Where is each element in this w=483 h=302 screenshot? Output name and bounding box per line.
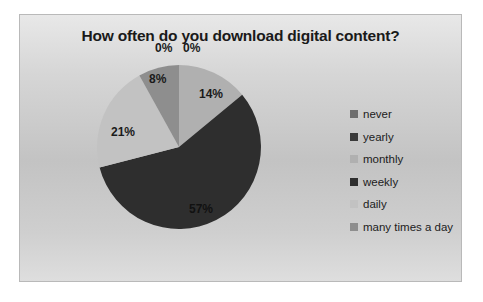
legend-swatch-icon xyxy=(350,110,358,118)
legend-item-yearly[interactable]: yearly xyxy=(350,126,480,149)
legend-label: yearly xyxy=(363,131,394,143)
legend-label: never xyxy=(363,108,392,120)
pie-label-daily: 21% xyxy=(111,125,135,139)
legend-item-weekly[interactable]: weekly xyxy=(350,171,480,194)
legend-item-daily[interactable]: daily xyxy=(350,193,480,216)
legend-label: daily xyxy=(363,198,387,210)
legend-label: weekly xyxy=(363,176,398,188)
legend-item-never[interactable]: never xyxy=(350,103,480,126)
pie-svg xyxy=(79,47,279,247)
legend-swatch-icon xyxy=(350,133,358,141)
pie-label-weekly: 57% xyxy=(189,202,213,216)
chart-panel: How often do you download digital conten… xyxy=(19,14,462,282)
pie-label-yearly: 0% xyxy=(183,41,200,55)
legend-item-monthly[interactable]: monthly xyxy=(350,148,480,171)
legend-swatch-icon xyxy=(350,178,358,186)
legend-item-many-times-a-day[interactable]: many times a day xyxy=(350,216,480,239)
pie-label-monthly: 14% xyxy=(199,87,223,101)
legend-swatch-icon xyxy=(350,200,358,208)
pie-label-many-times-a-day: 8% xyxy=(149,72,166,86)
legend-label: many times a day xyxy=(363,221,453,233)
chart-legend: never yearly monthly weekly daily many t xyxy=(350,103,480,238)
legend-swatch-icon xyxy=(350,155,358,163)
pie-chart: 0% 0% 14% 57% 21% 8% xyxy=(79,47,279,247)
plot-area: 0% 0% 14% 57% 21% 8% never yearly monthl… xyxy=(20,15,461,281)
legend-swatch-icon xyxy=(350,223,358,231)
pie-label-never: 0% xyxy=(155,41,172,55)
legend-label: monthly xyxy=(363,153,403,165)
